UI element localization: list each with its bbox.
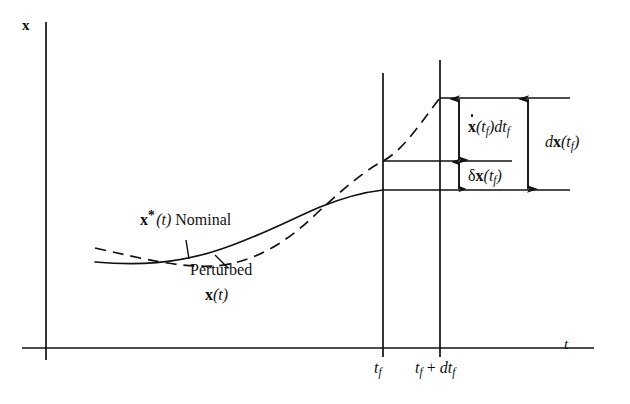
axis-group [22,22,594,360]
annotation-dx-label: dx(tf) [545,134,579,153]
nominal-star: * [148,208,155,223]
x-axis-label: t [564,337,568,352]
nominal-curve-label: x* (t) Nominal [140,209,231,228]
tick-tfdtf-d: dt [440,359,452,376]
perturbed-curve-label: Perturbed [190,262,252,278]
perturbed-symbol: x [205,286,213,303]
dx-x-symbol: x [553,133,561,150]
dx-arg-close: ) [574,133,579,150]
annotation-delta-x-label: δx(tf) [468,168,502,187]
curves-group [95,98,440,266]
delta-x-symbol: x [476,167,484,184]
time-lines-group [383,60,440,357]
nominal-arg: (t) [156,211,171,228]
delta-x-arg-close: ) [497,167,502,184]
figure-canvas: x t tf tf + dtf x* (t) Nominal Perturbed… [0,0,630,404]
tick-label-tf: tf [374,360,382,379]
dx-d-symbol: d [545,133,553,150]
tick-tf-sub: f [378,366,381,378]
nominal-label-leader-line [186,240,189,259]
xdot-term: dt [494,118,506,135]
y-axis-label: x [22,18,30,33]
delta-symbol: δ [468,167,476,184]
dx-arg: (t [561,133,571,150]
delta-x-arg: (t [484,167,494,184]
perturbed-trajectory-curve [95,98,440,266]
perturbed-arg: (t) [213,286,228,303]
tick-tfdtf-dsub: f [452,366,455,378]
perturbed-curve-symbol-label: x(t) [205,287,228,303]
xdot-term-sub: f [507,125,510,137]
nominal-symbol: x [140,211,148,228]
tick-label-tf-plus-dtf: tf + dtf [415,360,455,379]
tick-tfdtf-plus: + [423,359,440,376]
nominal-text: Nominal [175,211,231,228]
trajectory-diagram-svg [0,0,630,404]
nominal-trajectory-curve [95,190,383,264]
annotation-xdot-dtf-label: x(tf)dtf [468,119,510,138]
xdot-symbol: x [468,119,476,135]
xdot-arg: (t [476,118,486,135]
